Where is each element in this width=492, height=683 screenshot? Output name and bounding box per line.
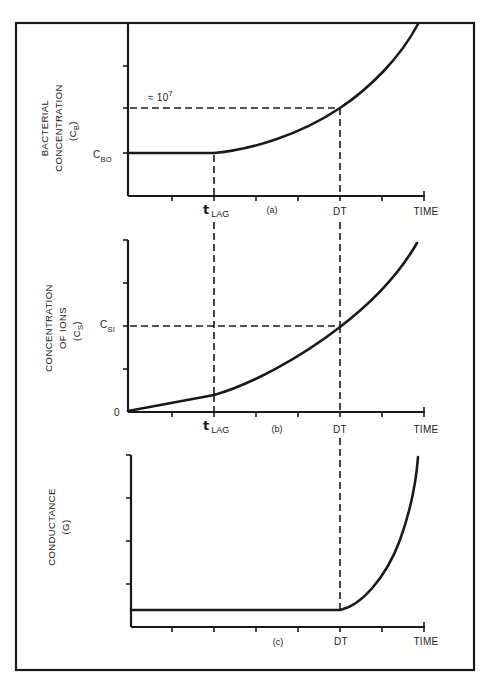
panel-c-time-label: TIME: [413, 636, 438, 647]
panel-c-panel-label: (c): [273, 637, 284, 647]
svg-text:CONCENTRATION: CONCENTRATION: [53, 84, 64, 171]
panel-a-1e7-label: ≈ 107: [148, 89, 173, 103]
svg-text:OF IONS: OF IONS: [57, 307, 68, 349]
panel-b-panel-label: (b): [272, 424, 283, 434]
panel-b-csi-label: CSI: [100, 319, 115, 334]
panel-a-cbo-label: CBO: [93, 149, 112, 164]
panel-b-dt-label: DT: [333, 424, 347, 435]
panel-b-ion-curve: [128, 243, 417, 411]
panel-c-conductance: CONDUCTANCE (G) (c) DT TIME: [46, 455, 439, 647]
panel-a-tlag-label: tLAG: [203, 202, 229, 219]
panel-b-ion-concentration: CONCENTRATION OF IONS (CS) CSI 0 tLAG (b…: [43, 240, 439, 435]
panel-c-dt-label: DT: [334, 636, 348, 647]
svg-text:CONCENTRATION: CONCENTRATION: [43, 284, 54, 371]
panel-b-tlag-label: tLAG: [203, 418, 229, 435]
panel-a-dt-label: DT: [333, 206, 347, 217]
bacterial-growth-figure: BACTERIAL CONCENTRATION (CB) CBO ≈ 107 t…: [0, 0, 492, 683]
panel-a-bacterial-concentration: BACTERIAL CONCENTRATION (CB) CBO ≈ 107 t…: [39, 23, 439, 219]
panel-a-panel-label: (a): [267, 205, 278, 215]
panel-b-y-axis-label: CONCENTRATION OF IONS (CS): [43, 284, 85, 371]
svg-text:(G): (G): [60, 520, 71, 535]
svg-text:(CB): (CB): [67, 121, 81, 141]
svg-text:BACTERIAL: BACTERIAL: [39, 100, 50, 156]
panel-c-conductance-curve: [131, 457, 418, 610]
figure-frame: [16, 23, 474, 670]
panel-b-origin-label: 0: [114, 407, 120, 418]
panel-a-y-axis-label: BACTERIAL CONCENTRATION (CB): [39, 84, 81, 171]
panel-a-time-label: TIME: [413, 206, 438, 217]
panel-b-time-label: TIME: [413, 424, 438, 435]
svg-text:(CS): (CS): [71, 321, 85, 341]
svg-text:CONDUCTANCE: CONDUCTANCE: [46, 488, 57, 566]
panel-c-y-axis-label: CONDUCTANCE (G): [46, 488, 71, 566]
